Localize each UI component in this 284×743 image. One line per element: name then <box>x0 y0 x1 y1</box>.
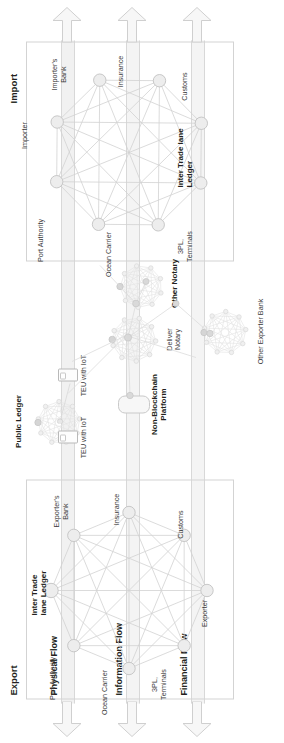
network-export-label-expbank: Exporter'sBank <box>52 487 70 535</box>
diagram-frame: Physical Flow Information Flow Financial… <box>0 0 284 743</box>
network-import-center-label: Inter Trade lane Ledger <box>176 91 195 187</box>
section-title-import: Import <box>8 73 19 103</box>
arrow-physical-left <box>52 701 86 737</box>
network-import-label-impbank: Importer'sBank <box>50 49 68 99</box>
arrow-information-left <box>117 701 151 737</box>
network-export-label-customs: Customs <box>176 503 185 545</box>
arrow-financial-left <box>182 701 216 737</box>
label-public-ledger: Public Ledger <box>14 385 23 457</box>
network-import-label-port: Port Authority <box>36 211 45 269</box>
network-export-label-exporter: Exporter <box>200 591 209 635</box>
network-export-label-insurance: Insurance <box>112 485 121 533</box>
corridor-connectors <box>60 233 250 453</box>
section-title-export: Export <box>8 665 19 695</box>
arrow-information-right <box>117 6 151 42</box>
network-export-center-label: Inter Trade lane Ledger <box>30 537 49 615</box>
arrow-financial-right <box>182 6 216 42</box>
network-export-label-3pl: 3PL,Terminals <box>150 661 168 707</box>
network-import-label-insurance: Insurance <box>116 47 125 95</box>
import-center-line2: Ledger <box>185 160 194 187</box>
export-center-line2: lane Ledger <box>39 570 48 615</box>
label-other-exporter-bank: Other Exporter Bank <box>256 289 265 373</box>
import-center-line1: Inter Trade lane <box>176 128 185 187</box>
diagram-stage: Physical Flow Information Flow Financial… <box>0 0 284 743</box>
network-import-label-importer: Importer <box>20 113 29 157</box>
arrow-physical-right <box>52 6 86 42</box>
export-center-line1: Inter Trade <box>30 574 39 615</box>
network-export-label-port: Port Authority <box>48 649 57 707</box>
network-export-label-ocean: Ocean Carrier <box>100 663 109 721</box>
